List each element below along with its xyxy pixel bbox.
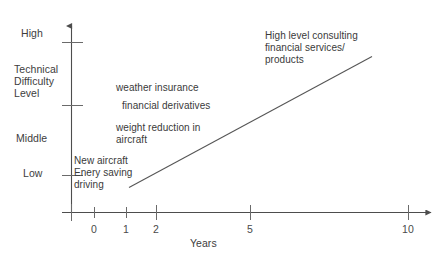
annotation-products: products (265, 54, 304, 66)
annotation-driving: driving (74, 179, 104, 191)
x-axis-tick-label-10: 10 (402, 224, 414, 236)
y-axis-label-low: Low (23, 168, 42, 180)
x-axis-tick-label-5: 5 (247, 224, 253, 236)
y-axis-title-line-1: Technical (14, 64, 58, 76)
x-axis-title: Years (190, 238, 217, 250)
annotation-new-aircraft: New aircraft (74, 155, 128, 167)
y-axis-title-line-2: Difficulty (14, 76, 54, 88)
annotation-weather-insurance: weather insurance (116, 82, 199, 94)
y-axis-label-middle: Middle (16, 133, 47, 145)
annotation-financial-derivatives: financial derivatives (122, 100, 210, 112)
y-axis-label-high: High (21, 28, 43, 40)
chart-canvas (0, 0, 444, 267)
x-axis-tick-label-0: 0 (91, 224, 97, 236)
annotation-energy-saving: Enery saving (74, 167, 132, 179)
chart-container: High Middle Low Technical Difficulty Lev… (0, 0, 444, 267)
x-axis-tick-label-2: 2 (153, 224, 159, 236)
annotation-weight-reduction-line-2: aircraft (116, 134, 147, 146)
annotation-weight-reduction-line-1: weight reduction in (116, 122, 200, 134)
y-axis-title-line-3: Level (14, 88, 39, 100)
annotation-financial-services: financial services/ (265, 42, 345, 54)
annotation-high-level-consulting: High level consulting (265, 30, 358, 42)
x-axis-tick-label-1: 1 (123, 224, 129, 236)
